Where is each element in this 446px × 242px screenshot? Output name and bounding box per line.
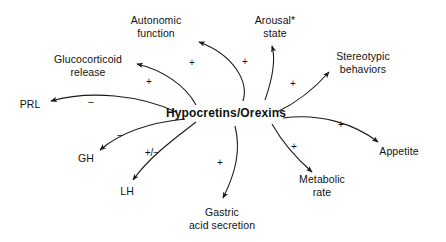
- edge-sign-gastric-acid-secretion: +: [217, 158, 223, 168]
- node-lh[interactable]: LH: [120, 185, 134, 198]
- node-appetite[interactable]: Appetite: [379, 145, 418, 158]
- edge-hub-to-prl: [51, 95, 176, 112]
- edge-sign-gh: −: [117, 130, 123, 140]
- edge-hub-to-arousal-state: [265, 46, 274, 100]
- node-metabolic-rate[interactable]: Metabolic rate: [299, 173, 345, 198]
- edge-sign-appetite: +: [338, 120, 344, 130]
- edge-hub-to-autonomic-function: [199, 42, 244, 101]
- edge-sign-lh: +/−: [145, 148, 159, 158]
- edge-hub-to-appetite: [283, 117, 378, 142]
- edge-sign-metabolic-rate: +: [291, 142, 297, 152]
- node-hypocretins-orexins[interactable]: Hypocretins/Orexins: [166, 107, 286, 120]
- node-gh[interactable]: GH: [78, 152, 94, 165]
- edge-hub-to-gastric-acid-secretion: [223, 126, 238, 198]
- edge-sign-glucocorticoid-release: +: [146, 77, 152, 87]
- node-autonomic-function[interactable]: Autonomic function: [131, 14, 182, 39]
- edge-hub-to-lh: [133, 122, 196, 180]
- edge-hub-to-gh: [100, 119, 185, 150]
- node-stereotypic-behaviors[interactable]: Stereotypic behaviors: [336, 50, 390, 75]
- edge-sign-prl: −: [88, 97, 94, 107]
- diagram-canvas: Hypocretins/Orexins Autonomic function A…: [0, 0, 446, 242]
- node-arousal-state[interactable]: Arousal* state: [255, 14, 296, 39]
- edge-sign-autonomic-function: +: [189, 58, 195, 68]
- node-gastric-acid-secretion[interactable]: Gastric acid secretion: [189, 206, 255, 231]
- node-prl[interactable]: PRL: [20, 98, 41, 111]
- edge-sign-arousal-state: +: [242, 57, 248, 67]
- edge-sign-stereotypic-behaviors: +: [290, 79, 296, 89]
- node-glucocorticoid-release[interactable]: Glucocorticoid release: [54, 53, 122, 78]
